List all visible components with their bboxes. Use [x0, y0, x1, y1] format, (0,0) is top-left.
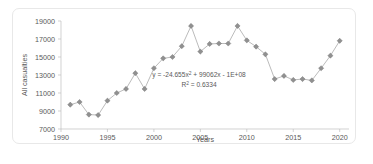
x-axis-tick-label: 1990 — [53, 133, 69, 142]
x-axis-tick-label: 1995 — [99, 133, 115, 142]
x-axis-tick-marks — [61, 129, 340, 132]
y-axis-tick-label: 19000 — [35, 17, 55, 26]
data-point-marker — [272, 76, 277, 81]
data-point-marker — [281, 73, 286, 78]
data-point-marker — [188, 23, 193, 28]
y-axis-tick-marks — [58, 21, 61, 129]
x-axis-tick-label: 2000 — [146, 133, 162, 142]
y-axis-tick-labels: 700090001100013000150001700019000 — [35, 17, 55, 134]
data-point-marker — [133, 71, 138, 76]
y-axis-tick-label: 15000 — [35, 53, 55, 62]
x-axis-tick-label: 2020 — [332, 133, 348, 142]
y-axis-tick-label: 17000 — [35, 35, 55, 44]
data-point-marker — [337, 38, 342, 43]
data-point-marker — [96, 112, 101, 117]
trendline-equation-label: y = -24.655x2 + 99062x - 1E+08 — [152, 71, 246, 79]
data-point-marker — [216, 41, 221, 46]
data-point-marker — [68, 102, 73, 107]
data-point-marker — [226, 41, 231, 46]
chart-plot-wrapper: 700090001100013000150001700019000 199019… — [13, 9, 357, 145]
x-axis-tick-label: 2015 — [285, 133, 301, 142]
y-axis-tick-label: 9000 — [39, 107, 55, 116]
y-axis-tick-label: 11000 — [36, 89, 55, 98]
y-axis-tick-label: 13000 — [35, 71, 55, 80]
data-point-marker — [244, 38, 249, 43]
x-axis-tick-label: 2010 — [239, 133, 255, 142]
data-point-marker — [142, 86, 147, 91]
data-point-marker — [123, 86, 128, 91]
scatter-chart: 700090001100013000150001700019000 199019… — [13, 9, 357, 145]
data-point-marker — [235, 23, 240, 28]
x-axis-title: Years — [196, 135, 215, 144]
r-squared-label: R2 = 0.6334 — [181, 81, 217, 88]
data-point-marker — [291, 77, 296, 82]
data-point-marker — [300, 76, 305, 81]
y-axis-title: All casualties — [20, 54, 29, 96]
chart-container: 700090001100013000150001700019000 199019… — [12, 8, 356, 144]
